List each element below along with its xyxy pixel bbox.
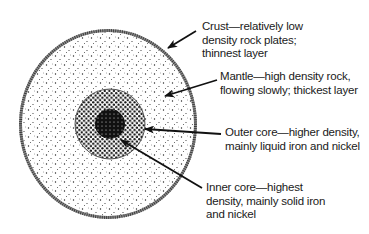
mantle-label-line-2: flowing slowly; thickest layer — [220, 84, 358, 98]
inner-core-label-line-1: Inner core—highest — [206, 181, 325, 195]
outer-core-label-line-1: Outer core—higher density, — [225, 126, 360, 140]
crust-arrow — [168, 31, 196, 48]
crust-label-line-3: thinnest layer — [202, 47, 303, 61]
inner-core-layer — [95, 109, 125, 139]
inner-core-label-line-2: density, mainly solid iron — [206, 195, 325, 209]
outer-core-label-line-2: mainly liquid iron and nickel — [225, 140, 360, 154]
outer-core-label: Outer core—higher density, mainly liquid… — [225, 126, 360, 153]
crust-label-line-2: density rock plates; — [202, 34, 303, 48]
mantle-label: Mantle—high density rock, flowing slowly… — [220, 70, 358, 97]
inner-core-label-line-3: and nickel — [206, 208, 325, 222]
crust-label-line-1: Crust—relatively low — [202, 20, 303, 34]
inner-core-label: Inner core—highest density, mainly solid… — [206, 181, 325, 222]
mantle-label-line-1: Mantle—high density rock, — [220, 70, 358, 84]
crust-label: Crust—relatively low density rock plates… — [202, 20, 303, 61]
